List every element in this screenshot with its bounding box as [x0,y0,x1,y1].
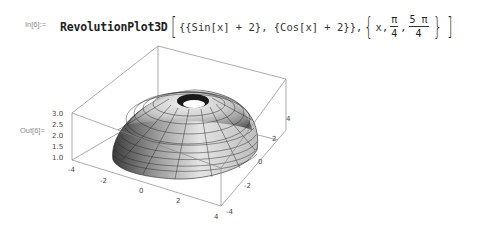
revolution-plot-3d[interactable]: 3.0 2.5 2.0 1.5 1.0 -4 -2 0 2 4 -4 -2 0 … [0,0,480,227]
svg-text:-4: -4 [226,208,234,216]
surface [113,90,258,179]
svg-text:4: 4 [214,213,219,221]
svg-text:0: 0 [139,187,143,195]
svg-text:-4: -4 [68,166,76,174]
svg-text:1.5: 1.5 [52,143,63,151]
svg-text:0: 0 [258,158,262,166]
svg-text:2.0: 2.0 [52,132,63,140]
svg-text:1.0: 1.0 [52,154,63,162]
svg-text:2: 2 [176,197,180,205]
z-axis-ticks: 3.0 2.5 2.0 1.5 1.0 [52,110,63,162]
svg-text:-2: -2 [244,182,251,190]
svg-text:2.5: 2.5 [52,121,63,129]
svg-text:-2: -2 [100,177,107,185]
svg-text:4: 4 [286,115,291,123]
svg-text:2: 2 [272,135,276,143]
svg-text:3.0: 3.0 [52,110,63,118]
